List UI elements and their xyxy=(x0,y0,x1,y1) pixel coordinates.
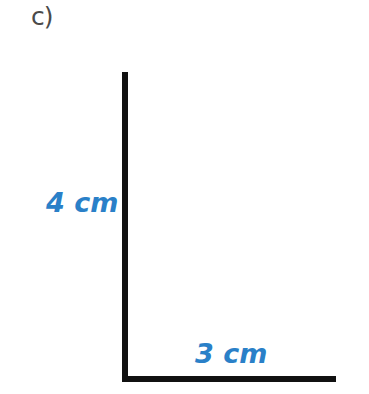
horizontal-dimension-label: 3 cm xyxy=(195,339,267,368)
geometry-figure: c) 4 cm 3 cm xyxy=(0,0,369,394)
vertical-dimension-label: 4 cm xyxy=(46,188,118,217)
